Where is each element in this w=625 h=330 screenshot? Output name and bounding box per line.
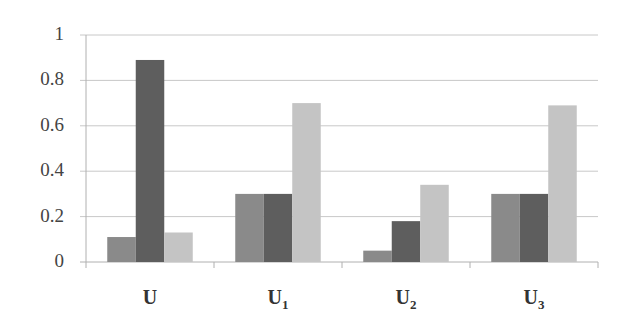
bar-series-2	[392, 221, 421, 262]
y-tick-label: 0.6	[4, 115, 64, 135]
y-tick-label: 0.8	[4, 69, 64, 89]
category-base: U	[524, 286, 538, 308]
x-category-label: U	[100, 286, 200, 309]
x-category-label: U1	[228, 286, 328, 313]
bar-series-2	[136, 60, 165, 262]
bar-series-1	[491, 194, 520, 262]
x-category-label: U3	[484, 286, 584, 313]
category-subscript: 3	[538, 297, 545, 312]
bar-series-1	[107, 237, 136, 262]
bar-series-3	[548, 105, 577, 262]
y-tick-label: 1	[4, 24, 64, 44]
bar-series-3	[164, 232, 193, 262]
bar-series-1	[363, 251, 392, 262]
bar-series-1	[235, 194, 264, 262]
y-tick-label: 0	[4, 251, 64, 271]
x-category-label: U2	[356, 286, 456, 313]
category-subscript: 1	[282, 297, 289, 312]
plot-area	[0, 0, 625, 330]
bar-series-2	[520, 194, 549, 262]
bar-series-3	[292, 103, 321, 262]
bar-series-3	[420, 185, 449, 262]
category-base: U	[396, 286, 410, 308]
y-tick-label: 0.4	[4, 160, 64, 180]
y-tick-label: 0.2	[4, 206, 64, 226]
category-subscript: 2	[410, 297, 417, 312]
bar-chart: 00.20.40.60.81 UU1U2U3	[0, 0, 625, 330]
category-base: U	[268, 286, 282, 308]
category-base: U	[143, 286, 157, 308]
bar-series-2	[264, 194, 293, 262]
